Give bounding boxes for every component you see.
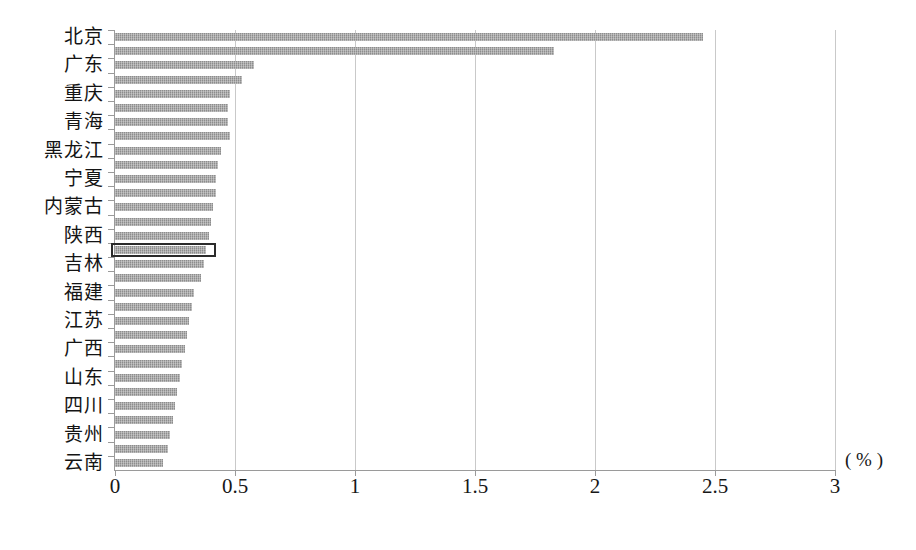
- category-label: 青海: [64, 112, 104, 131]
- bar: [115, 260, 204, 268]
- y-axis-tick: [108, 101, 115, 102]
- y-axis-tick: [108, 442, 115, 443]
- bar: [115, 147, 221, 155]
- bar: [115, 189, 216, 197]
- bar: [115, 360, 182, 368]
- category-label: 北京: [64, 27, 104, 46]
- gridline: [475, 30, 476, 470]
- bar: [115, 47, 554, 55]
- y-axis-tick: [108, 200, 115, 201]
- y-axis-tick: [108, 285, 115, 286]
- y-axis-tick: [108, 58, 115, 59]
- category-label: 宁夏: [64, 169, 104, 188]
- category-label: 陕西: [64, 226, 104, 245]
- y-axis-tick: [108, 271, 115, 272]
- x-axis-unit-label: ( % ): [845, 450, 883, 470]
- y-axis-tick: [108, 427, 115, 428]
- y-axis-tick: [108, 215, 115, 216]
- y-axis-tick: [108, 186, 115, 187]
- category-label: 黑龙江: [44, 141, 104, 160]
- y-axis-tick: [108, 73, 115, 74]
- bar: [115, 132, 230, 140]
- highlighted-bar-outline: [111, 243, 216, 257]
- y-axis-tick: [108, 229, 115, 230]
- category-label: 云南: [64, 453, 104, 472]
- bar: [115, 345, 185, 353]
- gridline: [235, 30, 236, 470]
- bar: [115, 104, 228, 112]
- y-axis-tick: [108, 328, 115, 329]
- x-axis-tick-label: 1.5: [462, 474, 488, 498]
- x-axis-tick-label: 0.5: [222, 474, 248, 498]
- bar: [115, 416, 173, 424]
- x-axis-tick-labels: 00.511.522.53: [115, 474, 875, 514]
- y-axis-tick: [108, 342, 115, 343]
- bar-chart: 北京广东重庆青海黑龙江宁夏内蒙古陕西吉林福建江苏广西山东四川贵州云南 00.51…: [0, 0, 916, 550]
- category-label-column: 北京广东重庆青海黑龙江宁夏内蒙古陕西吉林福建江苏广西山东四川贵州云南: [0, 30, 110, 470]
- category-label: 山东: [64, 368, 104, 387]
- bar: [115, 289, 194, 297]
- category-label: 江苏: [64, 311, 104, 330]
- y-axis-tick: [108, 413, 115, 414]
- category-label: 重庆: [64, 84, 104, 103]
- category-label: 广东: [64, 55, 104, 74]
- bar: [115, 388, 177, 396]
- bar: [115, 61, 254, 69]
- y-axis-tick: [108, 44, 115, 45]
- bar: [115, 203, 213, 211]
- category-label: 吉林: [64, 254, 104, 273]
- bar: [115, 331, 187, 339]
- category-label: 贵州: [64, 425, 104, 444]
- y-axis-tick: [108, 172, 115, 173]
- category-label: 福建: [64, 283, 104, 302]
- bar: [115, 76, 242, 84]
- y-axis-tick: [108, 257, 115, 258]
- gridline: [355, 30, 356, 470]
- bar: [115, 445, 168, 453]
- bar: [115, 90, 230, 98]
- category-label: 四川: [64, 396, 104, 415]
- y-axis-tick: [108, 87, 115, 88]
- gridline: [715, 30, 716, 470]
- x-axis-tick-label: 2: [590, 474, 601, 498]
- bar: [115, 218, 211, 226]
- y-axis-tick: [108, 115, 115, 116]
- bar: [115, 274, 201, 282]
- bar: [115, 374, 180, 382]
- gridline: [595, 30, 596, 470]
- y-axis-tick: [108, 144, 115, 145]
- y-axis-tick: [108, 456, 115, 457]
- bar: [115, 161, 218, 169]
- y-axis-tick: [108, 30, 115, 31]
- bar: [115, 459, 163, 467]
- bar: [115, 118, 228, 126]
- y-axis-tick: [108, 314, 115, 315]
- y-axis-tick: [108, 158, 115, 159]
- x-axis-tick-label: 3: [830, 474, 841, 498]
- bar: [115, 33, 703, 41]
- y-axis-tick: [108, 371, 115, 372]
- y-axis-tick: [108, 356, 115, 357]
- x-axis-tick-label: 0: [110, 474, 121, 498]
- bar: [115, 431, 170, 439]
- y-axis-tick: [108, 399, 115, 400]
- category-label: 内蒙古: [44, 197, 104, 216]
- y-axis-tick: [108, 385, 115, 386]
- bar: [115, 317, 189, 325]
- plot-area: [115, 30, 835, 470]
- x-axis-tick-label: 1: [350, 474, 361, 498]
- y-axis-tick: [108, 300, 115, 301]
- bar: [115, 402, 175, 410]
- x-axis-tick-label: 2.5: [702, 474, 728, 498]
- category-label: 广西: [64, 339, 104, 358]
- bar: [115, 303, 192, 311]
- bar: [115, 232, 209, 240]
- bar: [115, 175, 216, 183]
- y-axis-tick: [108, 129, 115, 130]
- gridline: [835, 30, 836, 470]
